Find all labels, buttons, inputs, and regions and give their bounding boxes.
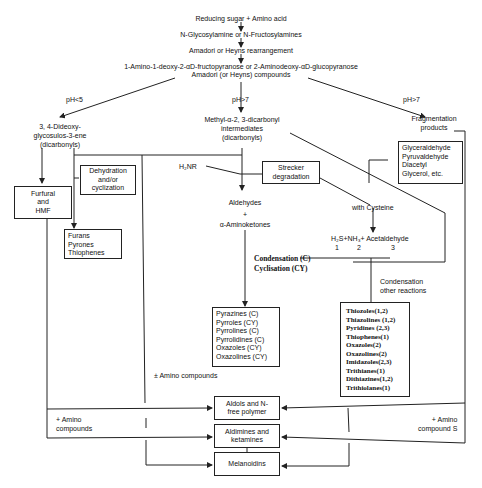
methyl-dicarbonyl-label: Methyl-α-2, 3-dicarbonyl intermediates (…	[180, 115, 304, 142]
dehydration-cyclization-box: Dehydration and/or cyclization	[80, 165, 136, 195]
cysteine-product-number-2: 2	[357, 243, 361, 252]
amino-compounds-label: ± Amino compounds	[154, 371, 217, 380]
aldimines-ketamines-box: Aldimines and ketamines	[214, 424, 280, 448]
left-amino-compounds-label: + Amino compounds	[56, 415, 92, 433]
condensation-other-label: Condensation other reactions	[380, 277, 426, 295]
rearrangement-label: Amadori or Heyns rearrangement	[0, 46, 482, 55]
strecker-degradation-box: Strecker degradation	[262, 161, 320, 184]
glycosylamine-label: N-Glycosylamine or N-Fructosylamines	[0, 30, 482, 39]
cysteine-product-number-3: 3	[391, 243, 395, 252]
condensation-cyclisation-label: Condensation (C) Cyclisation (CY)	[254, 254, 310, 273]
cysteine-product-number-1: 1	[335, 243, 339, 252]
aldols-polymer-box: Aldols and N- free polymer	[214, 396, 280, 420]
reactants-label: Reducing sugar + Amino acid	[0, 14, 482, 23]
ph-basic-middle-label: pH>7	[232, 95, 249, 104]
dideoxy-glycosulos-label: 3, 4-Dideoxy- glycosulos-3-ene (dicarbon…	[10, 122, 110, 149]
aldehydes-label: Aldehydes	[200, 198, 290, 207]
amine-h2nr-label: H₂NR	[179, 162, 197, 171]
aminoketones-label: α-Aminoketones	[200, 220, 290, 229]
pyrazines-pyrroles-box: Pyrazines (C) Pyrroles (CY) Pyrrolines (…	[212, 307, 280, 367]
cysteine-products-label: H₂S+NH₃+ Acetaldehyde	[331, 234, 409, 243]
fragmentation-products-label: Fragmentation products	[398, 114, 470, 132]
furans-pyrones-box: Furans Pyrones Thiophenes	[64, 229, 122, 259]
melanoidins-box: Melanoidins	[214, 452, 280, 476]
right-amino-compounds-label: + Amino compound S	[418, 415, 457, 433]
with-cysteine-label: with Cysteine	[352, 203, 394, 212]
plus-sign: +	[200, 210, 290, 219]
fragments-box: Glyceraldehyde Pyruvaldehyde Diacetyl Gl…	[398, 141, 463, 184]
ph-basic-right-label: pH>7	[403, 95, 420, 104]
amadori-compound-sublabel: Amadori (or Heyns) compounds	[0, 70, 482, 79]
furfural-hmf-box: Furfural and HMF	[14, 186, 72, 219]
sulfur-heterocycles-box: Thiozoles(1,2) Thiazolines (1,2) Pyridin…	[340, 302, 410, 397]
ph-acid-label: pH<5	[66, 95, 83, 104]
